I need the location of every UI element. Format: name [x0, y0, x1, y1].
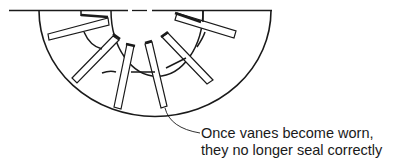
annotation-line-2: they no longer seal correctly [201, 142, 382, 159]
vane-1 [48, 18, 109, 40]
vane-2 [72, 36, 119, 83]
vane-3 [114, 44, 134, 109]
annotation-line-1: Once vanes become worn, [201, 125, 382, 142]
annotation-text: Once vanes become worn, they no longer s… [201, 125, 382, 159]
vanes [48, 13, 236, 109]
vane-5 [162, 33, 213, 84]
leader-line [165, 108, 200, 133]
